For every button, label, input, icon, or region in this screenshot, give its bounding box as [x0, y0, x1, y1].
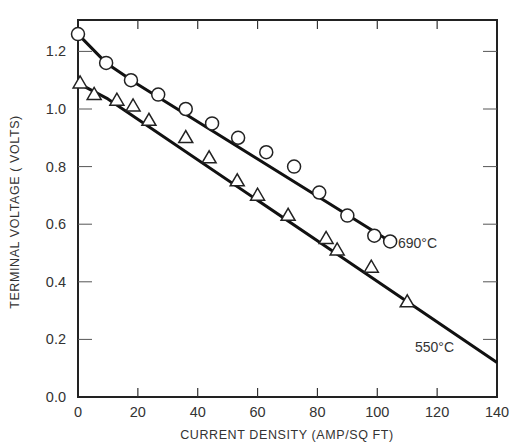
x-axis-label: CURRENT DENSITY (AMP/SQ FT) — [180, 428, 394, 442]
circle-marker — [179, 103, 192, 116]
triangle-marker — [202, 151, 216, 163]
circle-marker — [260, 146, 273, 159]
triangle-marker — [179, 131, 193, 143]
series-lines — [78, 34, 497, 362]
triangle-marker — [230, 174, 244, 186]
circle-marker — [124, 74, 137, 87]
circle-marker — [206, 117, 219, 130]
x-tick-label: 100 — [365, 404, 389, 420]
circle-marker — [100, 56, 113, 69]
triangle-marker — [142, 113, 156, 125]
x-tick-label: 140 — [485, 404, 509, 420]
y-tick-label: 1.2 — [46, 43, 66, 59]
x-tick-label: 0 — [74, 404, 82, 420]
x-tick-label: 80 — [309, 404, 325, 420]
circle-marker — [368, 229, 381, 242]
y-tick-label: 0.8 — [46, 159, 66, 175]
y-tick-label: 0.6 — [46, 216, 66, 232]
series-line — [78, 83, 497, 362]
circle-marker — [288, 160, 301, 173]
triangle-marker — [251, 188, 265, 200]
series-label-550c: 550°C — [415, 339, 454, 355]
circle-marker — [384, 235, 397, 248]
x-tick-label: 40 — [190, 404, 206, 420]
x-tick-label: 60 — [250, 404, 266, 420]
circle-marker — [232, 131, 245, 144]
y-tick-label: 1.0 — [46, 101, 66, 117]
y-tick-label: 0.0 — [46, 389, 66, 405]
x-tick-label: 20 — [130, 404, 146, 420]
triangle-marker — [319, 231, 333, 243]
triangle-marker — [73, 76, 87, 88]
circle-marker — [72, 28, 85, 41]
triangle-marker — [126, 99, 140, 111]
series-markers — [72, 28, 415, 307]
circle-marker — [313, 186, 326, 199]
circle-marker — [341, 209, 354, 222]
x-tick-label: 120 — [425, 404, 449, 420]
axis-ticks: 0204060801001201400.00.20.40.60.81.01.2 — [46, 20, 509, 420]
triangle-marker — [364, 260, 378, 272]
y-axis-label: TERMINAL VOLTAGE ( VOLTS) — [8, 115, 22, 309]
circle-marker — [152, 88, 165, 101]
y-tick-label: 0.4 — [46, 274, 66, 290]
triangle-marker — [330, 243, 344, 255]
series-label-690c: 690°C — [398, 235, 437, 251]
y-tick-label: 0.2 — [46, 331, 66, 347]
triangle-marker — [110, 93, 124, 105]
chart: 0204060801001201400.00.20.40.60.81.01.2 … — [0, 0, 522, 446]
triangle-marker — [281, 208, 295, 220]
